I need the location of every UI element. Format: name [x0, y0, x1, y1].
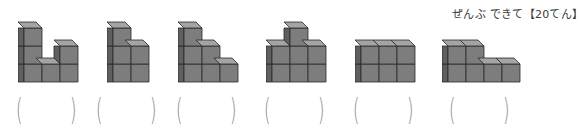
answer-open-paren-5: (	[353, 92, 359, 127]
cube-figure-2	[107, 20, 153, 84]
answer-close-paren-4: )	[318, 92, 324, 127]
answer-close-paren-5: )	[407, 92, 413, 127]
answer-field-2[interactable]	[108, 100, 148, 122]
cube-figure-3	[178, 20, 242, 84]
answer-close-paren-1: )	[70, 92, 76, 127]
answer-field-3[interactable]	[188, 100, 228, 122]
cube-figure-4	[266, 20, 330, 84]
cube-figure-5	[355, 38, 419, 84]
answer-open-paren-4: (	[264, 92, 270, 127]
cube-figure-6	[442, 38, 524, 84]
answer-open-paren-2: (	[96, 92, 102, 127]
answer-field-1[interactable]	[28, 100, 68, 122]
answer-field-4[interactable]	[276, 100, 316, 122]
answer-close-paren-2: )	[150, 92, 156, 127]
answer-open-paren-6: (	[449, 92, 455, 127]
answer-close-paren-6: )	[503, 92, 509, 127]
answer-field-5[interactable]	[365, 100, 405, 122]
score-label: ぜんぶ できて【20てん】	[452, 5, 581, 21]
cube-figure-1	[18, 20, 82, 84]
answer-open-paren-3: (	[176, 92, 182, 127]
answer-field-6[interactable]	[461, 100, 501, 122]
answer-close-paren-3: )	[230, 92, 236, 127]
answer-open-paren-1: (	[16, 92, 22, 127]
